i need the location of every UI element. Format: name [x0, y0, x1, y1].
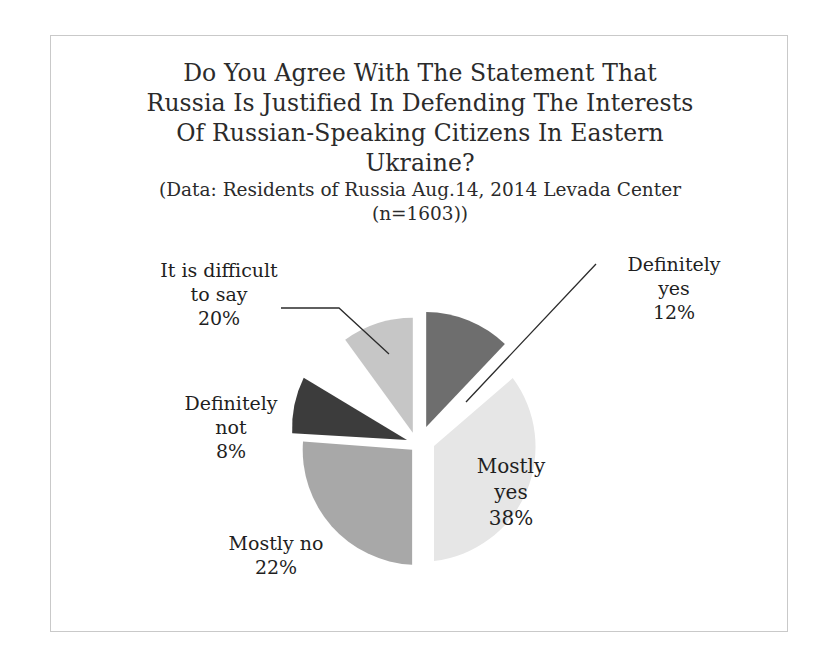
- slice-label-definitely-not-line1: Definitely: [184, 392, 277, 414]
- slice-label-difficult-to-say: It is difficult to say 20%: [139, 258, 299, 330]
- slice-label-difficult-line2: to say: [191, 283, 248, 305]
- slice-label-mostly-no-line1: Mostly no: [229, 532, 324, 554]
- slice-label-definitely-yes-line1: Definitely: [627, 253, 720, 275]
- slice-value-difficult-to-say: 20%: [139, 306, 299, 330]
- slice-label-definitely-yes: Definitely yes 12%: [599, 252, 749, 324]
- slice-value-definitely-yes: 12%: [599, 300, 749, 324]
- pie-chart: It is difficult to say 20% Definitely ye…: [51, 36, 789, 633]
- slice-value-mostly-yes: 38%: [446, 505, 576, 531]
- slice-value-mostly-no: 22%: [191, 555, 361, 579]
- slice-label-mostly-no: Mostly no 22%: [191, 531, 361, 579]
- pie-chart-svg: [51, 36, 789, 633]
- slice-label-mostly-yes-line2: yes: [494, 480, 527, 504]
- slice-label-mostly-yes-line1: Mostly: [477, 454, 546, 478]
- slice-label-definitely-not-line2: not: [215, 416, 246, 438]
- slice-label-definitely-yes-line2: yes: [658, 277, 690, 299]
- chart-frame: Do You Agree With The Statement That Rus…: [50, 35, 788, 632]
- slice-value-definitely-not: 8%: [151, 439, 311, 463]
- slice-label-definitely-not: Definitely not 8%: [151, 391, 311, 463]
- slice-label-mostly-yes: Mostly yes 38%: [446, 453, 576, 531]
- page-canvas: Do You Agree With The Statement That Rus…: [0, 0, 835, 665]
- slice-label-difficult-line1: It is difficult: [160, 259, 277, 281]
